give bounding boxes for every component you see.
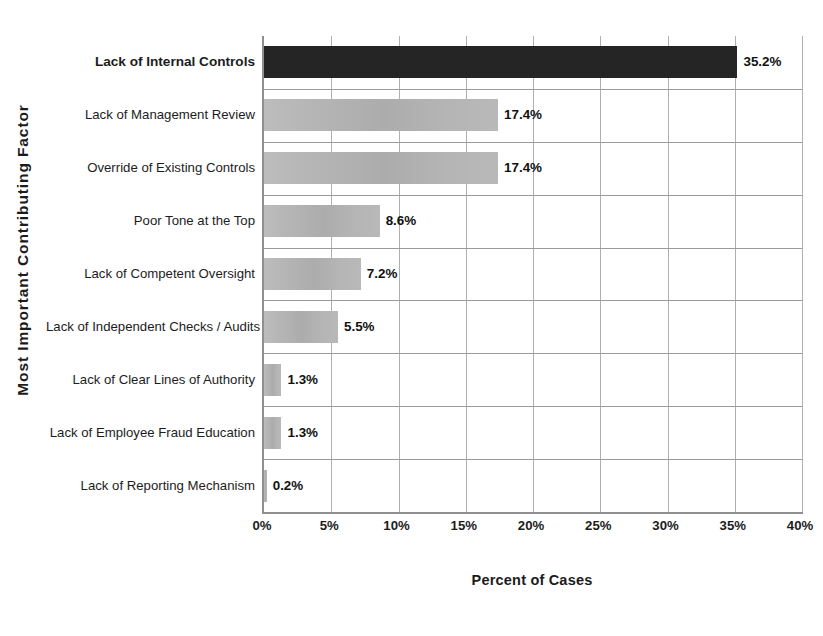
- x-axis-tick-label: 30%: [652, 518, 678, 533]
- bar: [264, 311, 338, 343]
- x-axis-tick-label: 0%: [252, 518, 271, 533]
- bar: [264, 364, 281, 396]
- category-label: Lack of Competent Oversight: [46, 267, 255, 280]
- category-axis-labels: Lack of Internal ControlsLack of Managem…: [46, 36, 255, 512]
- bar: [264, 99, 498, 131]
- category-label: Lack of Independent Checks / Audits: [46, 320, 255, 333]
- x-axis-tick-label: 15%: [451, 518, 477, 533]
- bar-value-label: 5.5%: [344, 320, 375, 333]
- bar: [264, 46, 737, 78]
- category-label: Override of Existing Controls: [46, 161, 255, 174]
- x-axis-tick-label: 40%: [787, 518, 813, 533]
- x-axis-tick-label: 5%: [320, 518, 339, 533]
- vertical-gridline: [668, 36, 669, 512]
- category-label: Lack of Reporting Mechanism: [46, 479, 255, 492]
- horizontal-gridline: [264, 459, 802, 460]
- horizontal-gridline: [264, 300, 802, 301]
- bar: [264, 470, 267, 502]
- bar-value-label: 1.3%: [287, 373, 318, 386]
- vertical-gridline: [802, 36, 803, 512]
- bar: [264, 417, 281, 449]
- bar-value-label: 17.4%: [504, 161, 542, 174]
- category-label: Poor Tone at the Top: [46, 214, 255, 227]
- bar: [264, 205, 380, 237]
- x-axis-tick-label: 35%: [720, 518, 746, 533]
- bar-value-label: 1.3%: [287, 426, 318, 439]
- horizontal-gridline: [264, 195, 802, 196]
- vertical-gridline: [735, 36, 736, 512]
- bar-value-label: 8.6%: [386, 214, 417, 227]
- bar-value-label: 17.4%: [504, 108, 542, 121]
- plot-area: 35.2%17.4%17.4%8.6%7.2%5.5%1.3%1.3%0.2%: [262, 36, 803, 514]
- bar-value-label: 0.2%: [273, 479, 304, 492]
- horizontal-gridline: [264, 353, 802, 354]
- x-axis-tick-label: 10%: [383, 518, 409, 533]
- y-axis-title: Most Important Contributing Factor: [0, 0, 46, 500]
- x-axis-tick-label: 25%: [585, 518, 611, 533]
- horizontal-gridline: [264, 89, 802, 90]
- horizontal-gridline: [264, 248, 802, 249]
- category-label: Lack of Clear Lines of Authority: [46, 373, 255, 386]
- bar: [264, 258, 361, 290]
- vertical-gridline: [600, 36, 601, 512]
- category-label: Lack of Management Review: [46, 108, 255, 121]
- horizontal-gridline: [264, 406, 802, 407]
- y-axis-title-text: Most Important Contributing Factor: [14, 104, 32, 396]
- category-label: Lack of Internal Controls: [46, 55, 255, 69]
- horizontal-gridline: [264, 142, 802, 143]
- x-axis-tick-label: 20%: [518, 518, 544, 533]
- x-axis-title: Percent of Cases: [262, 572, 802, 588]
- category-label: Lack of Employee Fraud Education: [46, 426, 255, 439]
- x-axis-tick-labels: 0%5%10%15%20%25%30%35%40%: [262, 518, 802, 542]
- bar-value-label: 35.2%: [743, 55, 781, 68]
- chart-page: Most Important Contributing Factor Lack …: [0, 0, 823, 636]
- bar-value-label: 7.2%: [367, 267, 398, 280]
- bar: [264, 152, 498, 184]
